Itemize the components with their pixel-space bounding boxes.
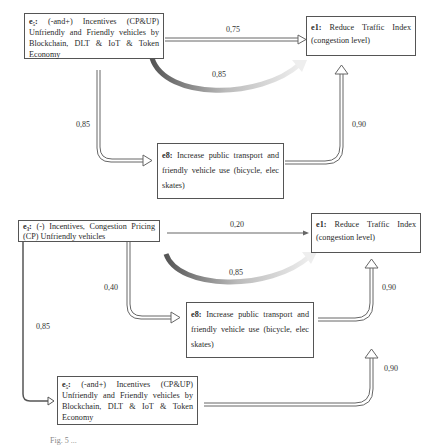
weight-curve-bottom: 0,85 (229, 268, 243, 277)
curved-edge-e5-e1-top (152, 58, 307, 90)
weight-e5-e8-top: 0,85 (76, 120, 90, 129)
node-e8-top: e8: Increase public transport and friend… (157, 143, 284, 199)
weight-e5-e1-bottom: 0,90 (384, 364, 398, 373)
edge-e3-e8-bottom (127, 240, 180, 323)
node-e3-bottom: e₃: (-) Incentives, Congestion Pricing (… (18, 220, 160, 242)
edge-e3-e1-bottom (167, 231, 309, 236)
node-e1-top: e1: Reduce Traffic Index (congestion lev… (306, 16, 416, 56)
node-text: (-and+) Incentives (CP&UP) Unfriendly an… (62, 380, 193, 422)
node-e8-bottom: e8: Increase public transport and friend… (186, 302, 314, 358)
node-id: e1: (311, 23, 321, 32)
node-id: e8: (191, 310, 201, 319)
edge-e5-e8-top (97, 70, 152, 166)
edge-e8-e1-top (285, 65, 348, 164)
edge-e8-e1-bottom (318, 259, 378, 321)
node-id: e8: (162, 151, 172, 160)
weight-e8-e1-bottom: 0,90 (382, 283, 396, 292)
weight-e3-e5-bottom: 0,85 (36, 322, 50, 331)
node-id: e₅: (62, 380, 71, 389)
node-text: (-) Incentives, Congestion Pricing (CP) … (23, 222, 155, 241)
node-e5-top: e₅: (-and+) Incentives (CP&UP) Unfriendl… (24, 13, 164, 59)
node-text: (-and+) Incentives (CP&UP) Unfriendly an… (29, 17, 159, 59)
figure-caption: Fig. 5 ... (50, 436, 77, 445)
node-text: Reduce Traffic Index (congestion level) (311, 23, 411, 45)
node-e5-bottom: e₅: (-and+) Incentives (CP&UP) Unfriendl… (57, 376, 198, 425)
weight-e3-e1-bottom: 0,20 (230, 220, 244, 229)
weight-e5-e1-top: 0,75 (226, 25, 240, 34)
node-id: e₅: (29, 17, 38, 26)
node-id: e₃: (23, 222, 32, 231)
weight-e8-e1-top: 0,90 (352, 120, 366, 129)
weight-e3-e8-bottom: 0,40 (104, 283, 118, 292)
edge-e5-e1-top (165, 35, 306, 44)
weight-curve-top: 0,85 (212, 70, 226, 79)
node-text: Reduce Traffic Index (congestion level) (316, 220, 416, 242)
node-text: Increase public transport and friendly v… (162, 151, 279, 190)
curved-edge-e3-e1-bottom (166, 252, 317, 282)
node-e1-bottom: e1: Reduce Traffic Index (congestion lev… (311, 213, 421, 253)
node-text: Increase public transport and friendly v… (191, 310, 309, 349)
node-id: e1: (316, 220, 326, 229)
